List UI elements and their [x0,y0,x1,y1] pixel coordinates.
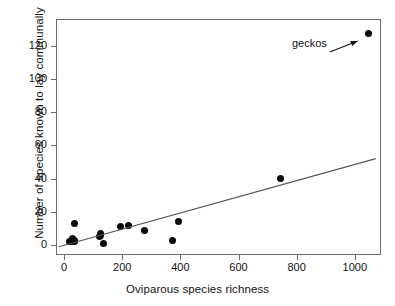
x-tick-mark [64,255,65,260]
data-point [169,237,176,244]
x-tick-mark [355,255,356,260]
x-tick-label: 400 [150,261,210,273]
scatter-plot-figure: Number of species known to lay communall… [0,0,395,306]
y-tick-mark [51,112,56,113]
data-point [71,220,78,227]
data-point [117,223,124,230]
y-tick-label: 100 [5,72,47,84]
x-tick-label: 600 [209,261,269,273]
data-point [125,222,132,229]
y-tick-label: 0 [5,238,47,250]
data-point [277,175,284,182]
y-tick-label: 120 [5,39,47,51]
x-tick-mark [122,255,123,260]
x-tick-mark [239,255,240,260]
x-tick-label: 800 [267,261,327,273]
y-tick-mark [51,212,56,213]
y-tick-mark [51,179,56,180]
x-tick-label: 1000 [325,261,385,273]
y-tick-mark [51,46,56,47]
x-tick-mark [297,255,298,260]
data-point [97,232,104,239]
y-tick-label: 60 [5,138,47,150]
y-tick-label: 40 [5,172,47,184]
y-tick-label: 80 [5,105,47,117]
y-tick-label: 20 [5,205,47,217]
y-tick-mark [51,145,56,146]
x-axis-title: Oviparous species richness [0,283,395,295]
y-tick-mark [51,245,56,246]
x-tick-label: 0 [34,261,94,273]
geckos-annotation-label: geckos [292,37,327,49]
x-tick-mark [180,255,181,260]
plot-area-frame [56,19,381,255]
data-point [71,237,78,244]
x-tick-label: 200 [92,261,152,273]
y-tick-mark [51,79,56,80]
data-point [100,240,107,247]
